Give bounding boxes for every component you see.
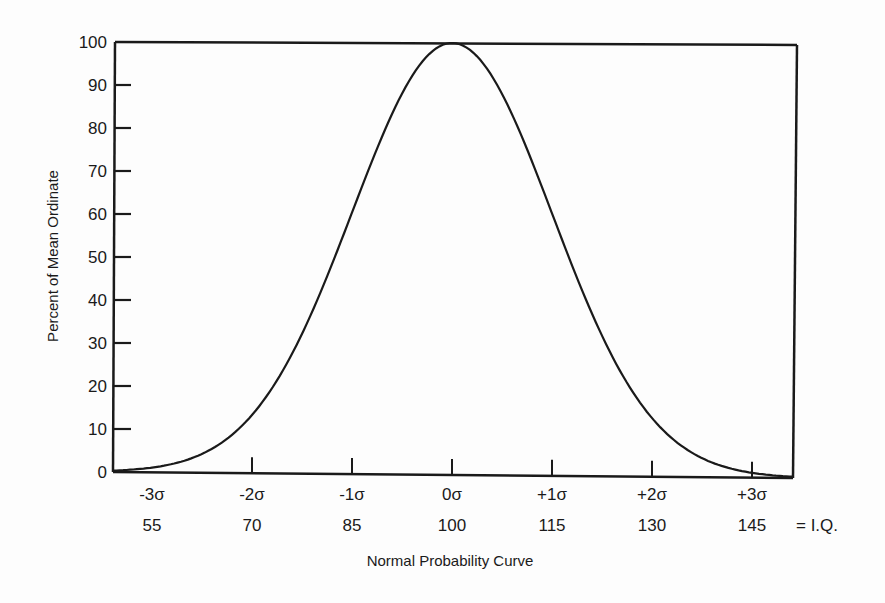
x-tick-iq-label: 55 (143, 516, 162, 535)
iq-suffix-label: = I.Q. (796, 516, 838, 535)
y-tick-label: 50 (88, 248, 107, 267)
y-tick-label: 40 (88, 291, 107, 310)
x-tick-sigma-label: -1σ (339, 485, 365, 504)
x-tick-iq-label: 130 (638, 516, 666, 535)
x-tick-sigma-label: -3σ (139, 485, 165, 504)
y-axis-ticks: 0102030405060708090100 (79, 33, 131, 482)
y-tick-label: 0 (98, 463, 107, 482)
x-tick-iq-label: 85 (343, 516, 362, 535)
x-tick-sigma-label: +3σ (737, 485, 767, 504)
x-axis-ticks: -3σ55-2σ70-1σ850σ100+1σ115+2σ130+3σ145 (139, 457, 767, 535)
y-tick-label: 30 (88, 334, 107, 353)
normal-curve-line (113, 43, 793, 477)
x-tick-sigma-label: 0σ (442, 485, 462, 504)
x-tick-sigma-label: +2σ (637, 485, 667, 504)
y-tick-label: 70 (88, 162, 107, 181)
y-tick-label: 10 (88, 420, 107, 439)
x-tick-sigma-label: -2σ (239, 485, 265, 504)
x-axis-title: Normal Probability Curve (367, 552, 534, 569)
x-tick-iq-label: 115 (538, 516, 565, 535)
x-tick-sigma-label: +1σ (537, 485, 567, 504)
x-tick-iq-label: 145 (738, 516, 766, 535)
y-tick-label: 20 (88, 377, 107, 396)
y-axis-title: Percent of Mean Ordinate (44, 170, 61, 342)
normal-curve-chart: 0102030405060708090100 -3σ55-2σ70-1σ850σ… (0, 0, 885, 603)
plot-frame (113, 42, 797, 478)
x-tick-iq-label: 70 (243, 516, 262, 535)
y-tick-label: 100 (79, 33, 107, 52)
y-tick-label: 90 (88, 76, 107, 95)
x-tick-iq-label: 100 (438, 516, 466, 535)
y-tick-label: 60 (88, 205, 107, 224)
y-tick-label: 80 (88, 119, 107, 138)
